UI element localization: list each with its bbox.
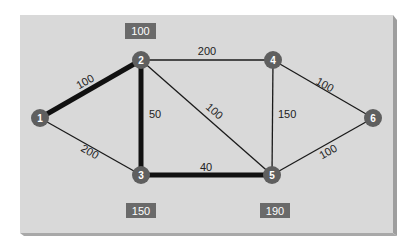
value-box-label: 100 — [131, 25, 149, 37]
network-diagram: 1002005020010040150100100 123456 1001501… — [0, 0, 419, 248]
panel-shadow-right — [393, 15, 397, 236]
edge-weight-label-3-5: 40 — [200, 161, 212, 173]
node-6: 6 — [364, 109, 382, 127]
value-box-label: 150 — [132, 205, 150, 217]
value-box-label: 190 — [266, 205, 284, 217]
node-2: 2 — [132, 51, 150, 69]
node-value-box-3: 150 — [126, 203, 156, 218]
node-label: 4 — [270, 55, 276, 66]
node-label: 6 — [370, 113, 376, 124]
node-label: 1 — [37, 113, 43, 124]
network-graph-svg: 1002005020010040150100100 123456 1001501… — [0, 0, 419, 248]
node-3: 3 — [132, 166, 150, 184]
panel-shadow-bottom — [20, 233, 397, 236]
node-label: 3 — [138, 170, 144, 181]
node-4: 4 — [264, 51, 282, 69]
edge-weight-label-2-4: 200 — [198, 45, 216, 57]
node-value-box-5: 190 — [260, 203, 290, 218]
node-label: 5 — [269, 170, 275, 181]
node-5: 5 — [263, 166, 281, 184]
edge-weight-label-4-5: 150 — [278, 108, 296, 120]
edge-weight-label-2-3: 50 — [149, 108, 161, 120]
node-1: 1 — [31, 109, 49, 127]
node-label: 2 — [138, 55, 144, 66]
node-value-box-2: 100 — [125, 23, 156, 39]
